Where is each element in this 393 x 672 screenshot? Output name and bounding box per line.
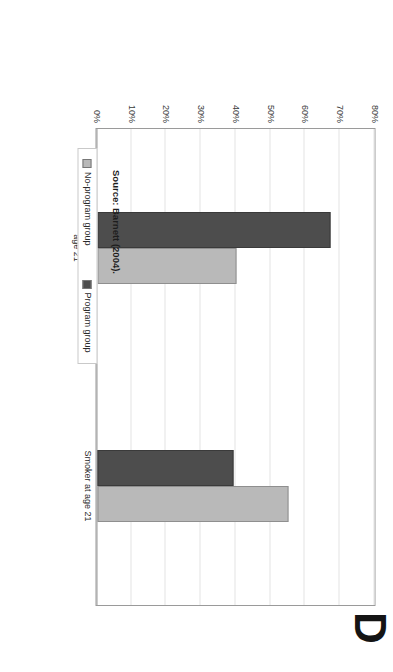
source-note: Source: Barnett (2004). <box>110 170 121 274</box>
bar-program-group <box>97 450 233 486</box>
y-axis-tick-label: 80% <box>369 105 379 123</box>
y-axis-tick-label: 10% <box>126 105 136 123</box>
plot-area: 0%10%20%30%40%50%60%70%80%Skilled Job or… <box>95 128 375 606</box>
y-axis-tick-label: 40% <box>230 105 240 123</box>
legend-swatch-program-icon <box>83 280 92 289</box>
legend-swatch-no-program-icon <box>83 159 92 168</box>
bar-program-group <box>97 212 330 248</box>
legend-item-program: Program group <box>82 280 92 353</box>
category-label-line: Smoker at age 21 <box>81 411 92 561</box>
bar-no-program-group <box>97 486 288 522</box>
rotated-page-canvas: D 0%10%20%30%40%50%60%70%80%Skilled Job … <box>0 0 393 672</box>
bar-chart: 0%10%20%30%40%50%60%70%80%Skilled Job or… <box>55 24 375 624</box>
y-axis-tick-label: 70% <box>334 105 344 123</box>
legend-item-no-program: No-program group <box>82 159 92 246</box>
y-axis-tick-label: 0% <box>91 110 101 123</box>
bar-group: Skilled Job or Higher Education atage 21 <box>97 129 375 367</box>
bar-group: Smoker at age 21 <box>97 367 375 605</box>
chart-legend: No-program group Program group <box>77 148 97 364</box>
y-axis-tick-label: 30% <box>195 105 205 123</box>
y-axis-tick-label: 20% <box>161 105 171 123</box>
y-axis-tick-label: 60% <box>300 105 310 123</box>
legend-label-program: Program group <box>82 293 92 353</box>
category-label: Smoker at age 21 <box>81 411 92 561</box>
y-axis-tick-label: 50% <box>265 105 275 123</box>
legend-label-no-program: No-program group <box>82 172 92 246</box>
